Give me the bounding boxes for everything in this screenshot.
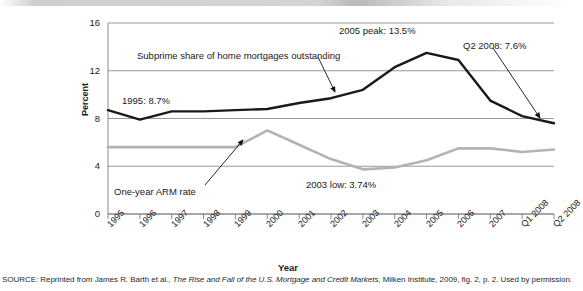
series-label-subprime: Subprime share of home mortgages outstan… xyxy=(137,50,340,61)
callout-2003-low: 2003 low: 3.74% xyxy=(306,179,376,190)
y-tick-label: 4 xyxy=(82,160,100,171)
callout-1995: 1995: 8.7% xyxy=(122,95,170,106)
arrow-subprime-label xyxy=(318,57,335,92)
source-note: SOURCE: Reprinted from James R. Barth et… xyxy=(2,275,572,284)
y-tick-label: 0 xyxy=(82,208,100,219)
series-label-arm: One-year ARM rate xyxy=(114,186,196,197)
y-tick-label: 12 xyxy=(82,65,100,76)
annotation-arrows-group xyxy=(205,48,540,185)
y-tick-label: 16 xyxy=(82,17,100,28)
callout-2005-peak: 2005 peak: 13.5% xyxy=(339,25,416,36)
arrow-q2-2008 xyxy=(493,48,540,118)
x-axis-title: Year xyxy=(0,262,576,273)
source-title: The Rise and Fall of the U.S. Mortgage a… xyxy=(173,275,379,284)
source-prefix: SOURCE: Reprinted from James R. Barth et… xyxy=(2,275,173,284)
source-suffix: , Milken Institute, 2009, fig. 2, p. 2. … xyxy=(378,275,572,284)
series-lines-group xyxy=(108,53,554,170)
chart-plot-area: Percent 0481216 199519961997199819992000… xyxy=(0,0,576,262)
y-tick-label: 8 xyxy=(82,113,100,124)
callout-q2-2008: Q2 2008: 7.6% xyxy=(463,40,526,51)
